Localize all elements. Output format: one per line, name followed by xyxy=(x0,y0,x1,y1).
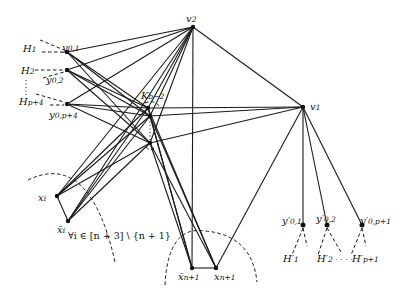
label-hp4: Hp+4 xyxy=(19,97,44,107)
label-k-clique: Kb−2 xyxy=(141,91,164,101)
label-hp1: H′1 xyxy=(283,254,299,264)
label-h1: H1 xyxy=(23,44,37,54)
label-x-n1: xn+1 xyxy=(214,272,236,282)
label-y02: y0,2 xyxy=(46,75,64,85)
label-y01: y0,1 xyxy=(62,43,80,53)
label-hp2: H′2 xyxy=(317,254,333,264)
label-xbar-n1: x̄n+1 xyxy=(178,272,200,282)
label-yp0p1: y′0,p+1 xyxy=(360,216,391,226)
label-dots: · · · · xyxy=(335,256,353,264)
label-hpp1: H′p+1 xyxy=(352,254,379,264)
label-yp01: y′0,1 xyxy=(282,216,302,226)
label-y0p4: y0,p+4 xyxy=(49,110,78,120)
edges-y0-k xyxy=(67,52,150,143)
edges-k-xn1 xyxy=(148,108,216,268)
label-v1: v1 xyxy=(310,102,320,112)
edges-v1 xyxy=(148,107,362,268)
edges-xi-k xyxy=(57,108,150,221)
h-prime-gadgets xyxy=(292,228,366,255)
label-forall: ∀i ∈ [n + 3] \ {n + 1} xyxy=(68,231,171,241)
label-h2: H2 xyxy=(21,66,35,76)
label-v2: v2 xyxy=(186,14,196,24)
label-xbar-i: x̄i xyxy=(57,225,65,235)
label-xi: xi xyxy=(38,193,46,203)
label-yp02: y′0,2 xyxy=(316,214,336,224)
